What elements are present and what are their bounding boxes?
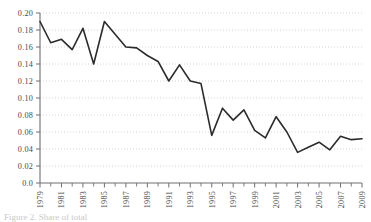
x-tick-label-5: 1989 (143, 191, 152, 208)
y-tick-label-3: 0.06 (18, 128, 33, 137)
x-tick-label-0: 1979 (36, 191, 45, 208)
x-tick-marks-group (40, 183, 362, 188)
caption-fragment: Figure 2. Share of total (4, 212, 304, 222)
x-tick-label-15: 2009 (358, 191, 367, 208)
data-series-line (40, 22, 362, 153)
y-tick-label-0: 0.0 (22, 179, 33, 188)
x-tick-labels-group: 1979198119831985198719891991199319951997… (36, 191, 367, 208)
y-tick-label-4: 0.08 (18, 111, 33, 120)
x-tick-label-6: 1991 (165, 191, 174, 208)
x-tick-label-3: 1985 (100, 191, 109, 208)
y-tick-label-6: 0.12 (18, 77, 33, 86)
x-tick-label-14: 2007 (337, 191, 346, 208)
x-tick-label-10: 1999 (251, 191, 260, 208)
x-tick-label-12: 2003 (294, 191, 303, 208)
x-tick-label-1: 1981 (57, 191, 66, 208)
x-tick-label-7: 1993 (186, 191, 195, 208)
x-tick-label-9: 1997 (229, 191, 238, 208)
x-tick-label-8: 1995 (208, 191, 217, 208)
y-tick-label-9: 0.18 (18, 26, 33, 35)
y-tick-label-1: 0.02 (18, 162, 33, 171)
gridlines-group (40, 13, 362, 166)
y-tick-label-7: 0.14 (18, 60, 33, 69)
y-tick-marks-group (36, 13, 40, 183)
y-tick-label-2: 0.04 (18, 145, 33, 154)
line-chart-figure: 0.00.020.040.060.080.100.120.140.160.180… (0, 0, 371, 222)
x-tick-label-2: 1983 (79, 191, 88, 208)
chart-canvas: 0.00.020.040.060.080.100.120.140.160.180… (0, 0, 371, 222)
y-tick-label-10: 0.20 (18, 9, 33, 18)
x-tick-label-13: 2005 (315, 191, 324, 208)
x-tick-label-11: 2001 (272, 191, 281, 208)
y-tick-labels-group: 0.00.020.040.060.080.100.120.140.160.180… (18, 9, 33, 188)
y-tick-label-8: 0.16 (18, 43, 33, 52)
y-tick-label-5: 0.10 (18, 94, 33, 103)
x-tick-label-4: 1987 (122, 191, 131, 208)
